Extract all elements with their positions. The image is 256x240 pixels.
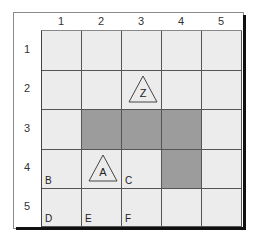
grid-cell-r1-c1	[42, 31, 82, 71]
frame-shadow-right	[243, 15, 246, 230]
grid-cell-r3-c4	[162, 110, 202, 150]
grid: ZABCDEF	[41, 30, 242, 227]
column-label-1: 1	[41, 15, 81, 27]
grid-cell-r2-c4	[162, 71, 202, 110]
grid-cell-r1-c3	[122, 31, 162, 71]
point-label-b: B	[45, 175, 52, 186]
point-label-e: E	[85, 213, 92, 224]
column-label-5: 5	[201, 15, 241, 27]
grid-cell-r3-c5	[202, 110, 242, 150]
column-label-4: 4	[161, 15, 201, 27]
grid-cell-r1-c2	[82, 31, 122, 71]
svg-text:Z: Z	[140, 87, 147, 99]
triangle-marker-a: A	[86, 152, 120, 188]
row-label-3: 3	[14, 122, 40, 134]
grid-cell-r5-c4	[162, 189, 202, 227]
grid-cell-r5-c5	[202, 189, 242, 227]
grid-cell-r2-c2	[82, 71, 122, 110]
grid-cell-r3-c1	[42, 110, 82, 150]
column-label-3: 3	[121, 15, 161, 27]
point-label-f: F	[125, 213, 131, 224]
triangle-marker-z: Z	[126, 73, 160, 109]
point-label-c: C	[125, 175, 132, 186]
grid-cell-r2-c5	[202, 71, 242, 110]
grid-cell-r1-c5	[202, 31, 242, 71]
column-label-2: 2	[81, 15, 121, 27]
point-label-d: D	[45, 213, 52, 224]
grid-cell-r4-c5	[202, 150, 242, 189]
row-label-5: 5	[14, 200, 40, 212]
row-label-1: 1	[14, 43, 40, 55]
row-label-2: 2	[14, 82, 40, 94]
grid-cell-r2-c1	[42, 71, 82, 110]
grid-cell-r3-c3	[122, 110, 162, 150]
grid-cell-r3-c2	[82, 110, 122, 150]
svg-text:A: A	[99, 166, 107, 178]
row-label-4: 4	[14, 161, 40, 173]
grid-cell-r4-c4	[162, 150, 202, 189]
grid-cell-r1-c4	[162, 31, 202, 71]
frame-shadow-bottom	[16, 227, 246, 230]
